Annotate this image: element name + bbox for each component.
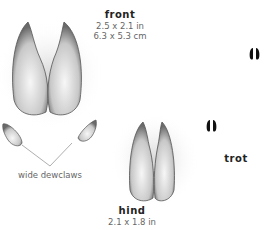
hind-size-in: 2.1 x 1.8 in bbox=[100, 217, 164, 227]
trot-print-icon bbox=[207, 48, 260, 132]
dewclaws-label: wide dewclaws bbox=[10, 170, 90, 180]
front-size-cm: 6.3 x 5.3 cm bbox=[88, 31, 152, 41]
front-title: front bbox=[98, 9, 142, 20]
hind-hoof-icon bbox=[110, 112, 200, 208]
hind-title: hind bbox=[110, 205, 154, 216]
front-size-in: 2.5 x 2.1 in bbox=[88, 21, 152, 31]
gait-label: trot bbox=[220, 153, 252, 164]
